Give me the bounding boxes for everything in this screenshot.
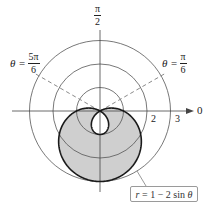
ray-5pi-6 (34, 73, 100, 111)
ray-label-5pi-6: θ = 5π 6 (10, 52, 40, 75)
ray-label-prefix: θ = (10, 58, 26, 69)
ray-label-prefix: θ = (162, 58, 178, 69)
radial-tick-3: 3 (175, 113, 180, 124)
curve-equation-label: r = 1 − 2 sin θ (130, 186, 198, 202)
ray-label-den: 6 (31, 64, 36, 75)
axis-label-den: 2 (95, 16, 100, 27)
axis-label-zero: 0 (197, 105, 203, 116)
ray-label-pi-6: θ = π 6 (162, 52, 187, 75)
callout-leader (137, 171, 146, 186)
ray-label-num: 5π (28, 52, 40, 64)
polar-axis-arrow-icon (186, 108, 194, 114)
axis-label-pi-over-2: π 2 (94, 4, 101, 27)
ray-pi-6 (100, 73, 166, 111)
ray-label-num: π (180, 52, 187, 64)
radial-tick-2: 2 (151, 113, 156, 124)
curve-label-theta: θ (187, 189, 192, 200)
ray-label-den: 6 (181, 64, 186, 75)
polar-graph (0, 0, 212, 206)
axis-label-num: π (94, 4, 101, 16)
curve-label-eq: = 1 − 2 sin (140, 189, 188, 200)
